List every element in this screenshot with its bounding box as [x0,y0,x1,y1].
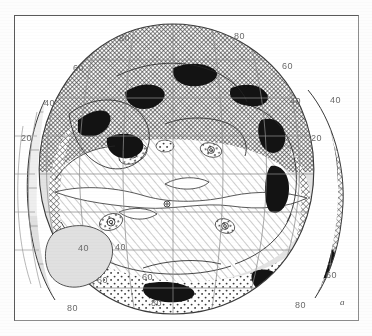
lobe-right-black-belt [311,139,338,278]
latitude-label: 60 [282,62,293,71]
latitude-label: 80 [67,304,78,313]
latitude-label: 60 [73,64,84,73]
latitude-label: 40 [78,244,89,253]
map-plot-area: 8080606040404020204040606060808080 a [15,16,358,320]
world-map-graphic [15,16,358,320]
latitude-label: 60 [326,271,337,280]
latitude-label: 80 [295,301,306,310]
figure-frame: 8080606040404020204040606060808080 a [14,15,359,321]
latitude-label: 40 [44,99,55,108]
panel-letter-label: a [340,297,345,307]
latitude-label: 60 [142,273,153,282]
figure-panel: 8080606040404020204040606060808080 a [0,0,372,336]
latitude-label: 60 [97,276,108,285]
latitude-label: 40 [290,97,301,106]
latitude-label: 20 [311,134,322,143]
latitude-label: 40 [115,243,126,252]
latitude-label: 80 [151,299,162,308]
latitude-label: 40 [330,96,341,105]
latitude-label: 80 [234,32,245,41]
latitude-label: 20 [21,134,32,143]
right-lobe-outline [308,90,343,298]
latitude-label: 80 [119,34,130,43]
